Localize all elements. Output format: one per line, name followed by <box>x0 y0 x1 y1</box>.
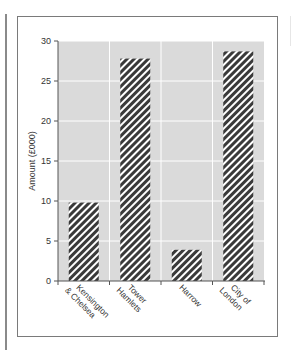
y-tick-label: 20 <box>41 116 51 126</box>
y-tick-label: 30 <box>41 36 51 46</box>
y-tick-label: 0 <box>46 276 51 286</box>
bar <box>223 51 253 281</box>
y-axis-label: Amount (£000) <box>27 131 37 191</box>
y-tick-label: 25 <box>41 76 51 86</box>
x-tick-label: Kensington& Chelsea <box>63 278 112 327</box>
y-tick-label: 10 <box>41 196 51 206</box>
y-tick-label: 5 <box>46 236 51 246</box>
plot-area: 051015202530Kensington& ChelseaTowerHaml… <box>41 36 265 327</box>
bar <box>120 59 150 281</box>
x-tick-label: TowerHamlets <box>115 278 151 314</box>
bar <box>69 203 99 281</box>
bar-chart: 051015202530Kensington& ChelseaTowerHaml… <box>0 0 293 350</box>
x-tick-label: City ofLondon <box>218 278 254 314</box>
x-tick-label: Harrow <box>177 282 204 309</box>
y-tick-label: 15 <box>41 156 51 166</box>
bar <box>172 250 202 281</box>
